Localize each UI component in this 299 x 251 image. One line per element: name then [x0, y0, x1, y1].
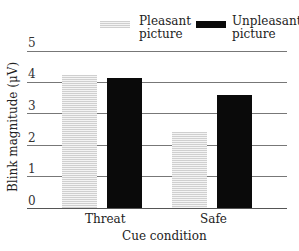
legend-label-pleasant: Pleasant picture: [139, 15, 191, 41]
bar-threat-pleasant: [62, 75, 97, 208]
legend-label-unpleasant: Unpleasant picture: [232, 15, 299, 41]
gridline-5: [27, 51, 287, 52]
x-axis-line: [27, 208, 287, 209]
x-axis-label: Cue condition: [122, 229, 207, 243]
y-tick-2: 2: [28, 131, 36, 145]
bar-threat-unpleasant: [107, 78, 142, 208]
y-tick-4: 4: [28, 67, 36, 81]
x-category-threat: Threat: [85, 212, 126, 226]
bar-safe-unpleasant: [217, 95, 252, 208]
y-tick-5: 5: [28, 36, 36, 50]
y-tick-3: 3: [28, 99, 36, 113]
y-tick-0: 0: [28, 194, 36, 208]
x-category-safe: Safe: [200, 212, 227, 226]
legend-swatch-pleasant: [100, 21, 130, 28]
legend-swatch-unpleasant: [196, 21, 226, 28]
y-axis-label: Blink magnitude (μV): [6, 62, 20, 192]
bar-safe-pleasant: [172, 132, 207, 208]
y-tick-1: 1: [28, 162, 36, 176]
